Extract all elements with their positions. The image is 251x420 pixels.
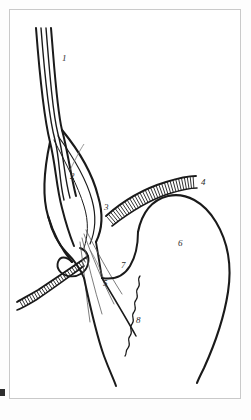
label-1: 1 (62, 54, 67, 63)
page-edge-mark (0, 389, 5, 396)
anatomical-line-drawing (0, 0, 251, 420)
hatch-tick (58, 277, 70, 295)
lower-band-top-edge (17, 256, 88, 302)
label-7: 7 (121, 261, 126, 270)
label-5: 5 (103, 279, 108, 288)
hatch-tick (41, 288, 53, 306)
hatch-tick (46, 285, 58, 303)
hatch-tick (122, 203, 134, 221)
hatch-tick (113, 210, 127, 227)
main-outline-group (36, 28, 230, 386)
fan-fiber-c (82, 238, 102, 314)
hatch-tick (187, 177, 190, 199)
dome-contour (138, 195, 230, 383)
hatch-tick (44, 286, 56, 304)
fan-fiber-b (84, 234, 114, 304)
label-8: 8 (136, 316, 141, 325)
hatch-tick (120, 205, 133, 223)
hatch-tick (55, 278, 67, 296)
flap-seven-contour (102, 232, 138, 279)
hatch-tick (110, 212, 124, 229)
hatch-tick (48, 283, 60, 301)
label-2: 2 (70, 172, 75, 181)
hatch-tick (190, 176, 193, 198)
hatch-tick (117, 207, 130, 225)
figure-root: 12345678 (0, 0, 251, 420)
hatch-tick (193, 176, 194, 198)
hatch-tick (115, 209, 128, 227)
hatch-tick (39, 289, 51, 307)
label-3: 3 (104, 203, 109, 212)
hatch-tick (125, 202, 137, 220)
hatch-tick (51, 282, 63, 300)
label-4: 4 (201, 178, 206, 187)
bulb-inner-line-a (58, 136, 95, 244)
label-6: 6 (178, 239, 183, 248)
hatch-tick (53, 280, 65, 298)
